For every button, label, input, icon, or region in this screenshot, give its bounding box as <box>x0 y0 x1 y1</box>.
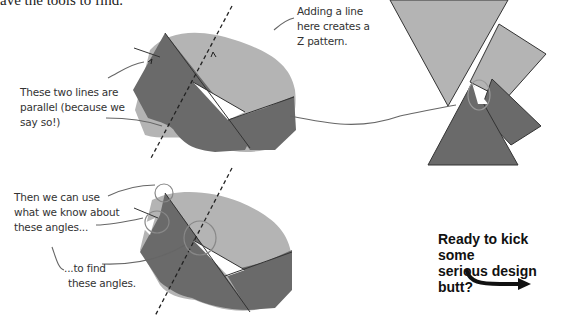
annotation-find-angles: ...to find these angles. <box>64 261 136 291</box>
annotation-line: these angles... <box>14 220 119 235</box>
annotation-line: parallel (because we <box>20 100 125 115</box>
annotation-line: here creates a <box>297 19 370 34</box>
annotation-line: Then we can use <box>14 190 119 205</box>
annotation-z-pattern: Adding a line here creates a Z pattern. <box>297 4 370 49</box>
annotation-line: these angles. <box>64 276 136 291</box>
annotation-line: These two lines are <box>20 85 125 100</box>
angles-diagram <box>134 168 292 316</box>
annotation-line: ...to find <box>64 261 136 276</box>
annotation-line: Adding a line <box>297 4 370 19</box>
annotation-parallel-lines: These two lines are parallel (because we… <box>20 85 125 130</box>
cta-line: Ready to kick some <box>438 231 563 263</box>
z-pattern-diagram <box>133 6 296 160</box>
cta-text: Ready to kick some serious design butt? <box>438 231 563 295</box>
annotation-line: what we know about <box>14 205 119 220</box>
annotation-line: Z pattern. <box>297 34 370 49</box>
arrow-to-dashed-line <box>274 18 294 30</box>
annotation-line: say so!) <box>20 115 125 130</box>
arrow-to-triangles <box>290 105 456 124</box>
arrow-curl <box>52 247 64 270</box>
arrow-to-parallel-top <box>108 62 144 78</box>
triangles-diagram <box>390 0 546 165</box>
annotation-use-angles: Then we can use what we know about these… <box>14 190 119 235</box>
cta-line: serious design butt? <box>438 263 563 295</box>
